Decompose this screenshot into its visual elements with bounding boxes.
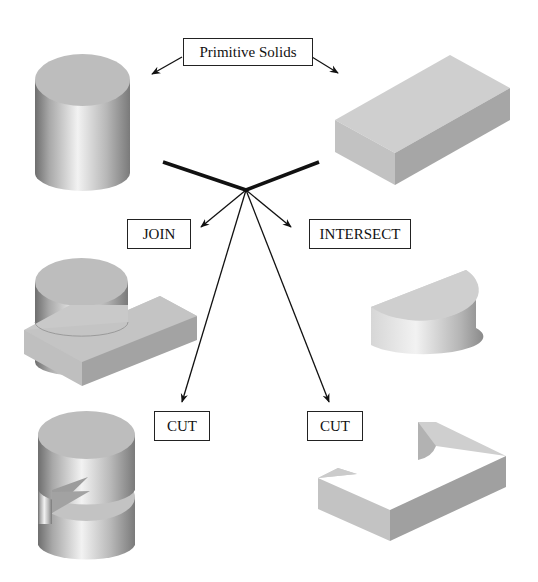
arrow-to-cylinder	[152, 57, 182, 74]
arrow-to-cut-left	[182, 190, 246, 402]
intersect-label: INTERSECT	[309, 219, 411, 249]
boolean-operations-diagram	[0, 0, 538, 582]
primitive-solids-label: Primitive Solids	[183, 38, 313, 66]
intersect-result-solid	[371, 270, 483, 354]
cut-left-label: CUT	[154, 411, 210, 441]
combine-lines	[163, 162, 319, 190]
join-label: JOIN	[127, 219, 191, 249]
cut-right-label: CUT	[307, 411, 363, 441]
primitive-cylinder	[35, 54, 130, 191]
primitive-box	[335, 55, 510, 185]
arrow-to-box	[312, 57, 338, 73]
cut-left-result-solid	[38, 411, 135, 560]
join-result-solid	[24, 258, 197, 386]
arrow-to-join	[201, 190, 246, 227]
